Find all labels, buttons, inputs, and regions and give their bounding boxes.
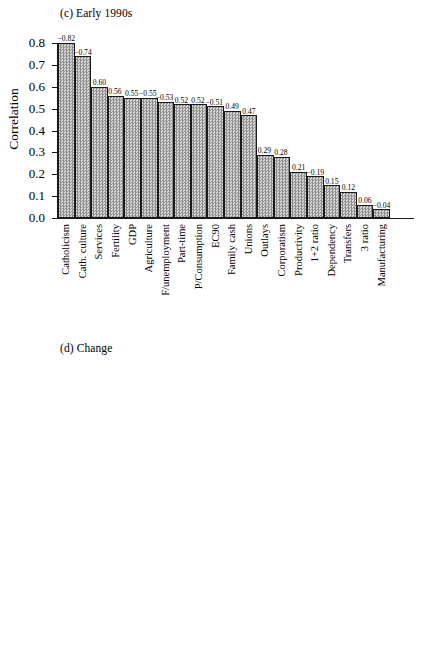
bar-value-label: −0.74: [74, 49, 92, 57]
y-tick-label: 0.7: [29, 58, 45, 71]
bar-slot: 0.06: [357, 43, 374, 218]
bar[interactable]: 0.49: [224, 111, 241, 218]
x-axis-labels-c: CatholicismCath. cultureServicesFertilit…: [58, 220, 390, 230]
y-axis-title-c: Correlation: [6, 88, 22, 149]
bar[interactable]: −0.04: [373, 209, 390, 218]
bar-slot: 0.60: [91, 43, 108, 218]
x-tick-label: Corporatism: [277, 224, 288, 277]
bar-value-label: 0.47: [242, 108, 255, 116]
x-tick-label: Dependency: [327, 224, 338, 276]
bar-slot: 0.15: [324, 43, 341, 218]
x-tick-label: Outlays: [260, 224, 271, 257]
x-label-slot: GDP: [124, 220, 141, 230]
bar[interactable]: −0.51: [207, 106, 224, 218]
bar[interactable]: 0.52: [174, 104, 191, 218]
x-tick-label: F/unemployment: [161, 224, 172, 296]
x-label-slot: Cath. culture: [75, 220, 92, 230]
bar-slot: 0.29: [257, 43, 274, 218]
bar-value-label: −0.53: [156, 94, 174, 102]
bar[interactable]: 0.12: [340, 192, 357, 218]
bar-value-label: 0.21: [292, 164, 305, 172]
bar-slot: 0.55: [124, 43, 141, 218]
bar-slot: −0.19: [307, 43, 324, 218]
bar-slot: −0.82: [58, 43, 75, 218]
x-label-slot: Family cash: [224, 220, 241, 230]
bar-slot: 0.47: [241, 43, 258, 218]
bar[interactable]: 0.15: [324, 185, 341, 218]
bar[interactable]: 0.21: [290, 172, 307, 218]
bar-slot: 0.49: [224, 43, 241, 218]
bar-value-label: 0.28: [274, 149, 287, 157]
bar-value-label: 0.15: [325, 178, 338, 186]
bar-value-label: −0.04: [373, 202, 391, 210]
x-tick-label: Catholicism: [61, 224, 72, 275]
y-tick: 0.3: [52, 152, 57, 153]
bar-value-label: 0.29: [258, 147, 271, 155]
x-label-slot: 1+2 ratio: [307, 220, 324, 230]
plot-area-early-1990s: Correlation 0.00.10.20.30.40.50.60.70.8 …: [57, 43, 412, 219]
bar[interactable]: 0.47: [241, 115, 258, 218]
y-tick: 0.6: [52, 87, 57, 88]
panel-title-c: (c) Early 1990s: [60, 7, 132, 19]
y-tick: 0.8: [52, 43, 57, 44]
bar-slot: −0.53: [158, 43, 175, 218]
y-tick-label: 0.6: [29, 80, 45, 93]
bar-value-label: 0.52: [191, 97, 204, 105]
y-tick: 0.7: [52, 65, 57, 66]
bar[interactable]: 0.52: [191, 104, 208, 218]
bar-slot: −0.74: [75, 43, 92, 218]
y-tick-label: 0.5: [29, 102, 45, 115]
y-tick-label: 0.1: [29, 189, 45, 202]
x-tick-label: Unions: [244, 224, 255, 254]
bar-value-label: −0.55: [139, 90, 157, 98]
x-label-slot: Dependency: [324, 220, 341, 230]
bar[interactable]: −0.19: [307, 176, 324, 218]
x-label-slot: Catholicism: [58, 220, 75, 230]
x-label-slot: Corporatism: [274, 220, 291, 230]
x-label-slot: 3 ratio: [357, 220, 374, 230]
y-tick-label: 0.0: [29, 211, 45, 224]
bar-value-label: −0.82: [58, 35, 76, 43]
y-tick-label: 0.2: [29, 167, 45, 180]
bar-value-label: −0.51: [205, 99, 223, 107]
x-axis-line-c: [57, 218, 414, 219]
x-label-slot: Manufacturing: [373, 220, 390, 230]
chart-panel-early-1990s: (c) Early 1990s Correlation 0.00.10.20.3…: [0, 0, 425, 330]
y-tick: 0.2: [52, 174, 57, 175]
y-tick: 0.1: [52, 196, 57, 197]
x-tick-label: EC90: [210, 224, 221, 248]
bar[interactable]: −0.53: [158, 102, 175, 218]
x-label-slot: P/Consumption: [191, 220, 208, 230]
x-label-slot: Productivity: [290, 220, 307, 230]
bar-slot: 0.52: [174, 43, 191, 218]
bar[interactable]: 0.06: [357, 205, 374, 218]
chart-panel-change: (d) Change Correlation 0.00.10.20.30.40.…: [0, 330, 425, 652]
bar-slot: −0.51: [207, 43, 224, 218]
x-label-slot: Unions: [241, 220, 258, 230]
x-tick-label: 3 ratio: [360, 224, 371, 251]
bar[interactable]: 0.56: [108, 96, 125, 219]
bar-group-c: −0.82−0.740.600.560.55−0.55−0.530.520.52…: [58, 43, 390, 218]
x-tick-label: Services: [94, 224, 105, 260]
bar[interactable]: −0.74: [75, 56, 92, 218]
bar[interactable]: −0.82: [58, 43, 75, 218]
bar-value-label: 0.12: [342, 184, 355, 192]
bar-value-label: 0.06: [358, 197, 371, 205]
bar[interactable]: −0.55: [141, 98, 158, 218]
bar[interactable]: 0.28: [274, 157, 291, 218]
bar[interactable]: 0.29: [257, 155, 274, 218]
panel-title-d: (d) Change: [60, 342, 112, 354]
bar[interactable]: 0.55: [124, 98, 141, 218]
bar-slot: 0.21: [290, 43, 307, 218]
x-tick-label: Cath. culture: [78, 224, 89, 278]
x-tick-label: P/Consumption: [194, 224, 205, 289]
x-label-slot: Fertility: [108, 220, 125, 230]
y-tick: 0.0: [52, 218, 57, 219]
x-label-slot: Services: [91, 220, 108, 230]
bar-slot: 0.52: [191, 43, 208, 218]
bar[interactable]: 0.60: [91, 87, 108, 218]
x-tick-label: Productivity: [293, 224, 304, 276]
x-tick-label: 1+2 ratio: [310, 224, 321, 262]
bar-slot: 0.28: [274, 43, 291, 218]
bar-value-label: 0.55: [125, 90, 138, 98]
